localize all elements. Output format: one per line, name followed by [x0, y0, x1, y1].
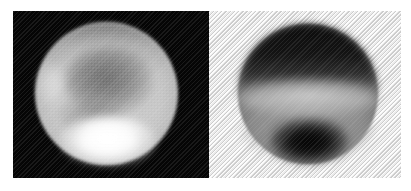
figure-root	[0, 0, 411, 191]
right-disc-edge-mask	[234, 20, 382, 168]
panel-left-positive-image	[13, 11, 209, 178]
south-polar-cap-core-icon	[76, 127, 138, 157]
panel-right-negative-image	[209, 11, 401, 178]
left-disc-wrapper	[13, 11, 209, 178]
figure-caption	[0, 0, 1, 1]
west-limb-brightening-icon	[37, 63, 63, 105]
